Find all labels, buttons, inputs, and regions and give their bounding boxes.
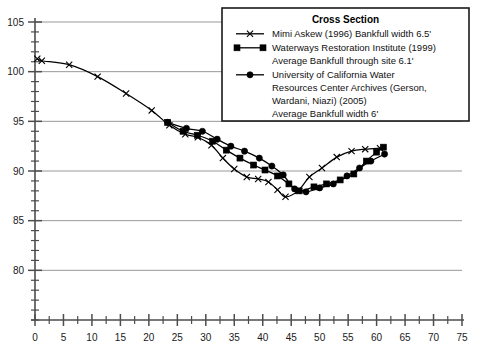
x-tick-label: 0 (32, 332, 38, 343)
series-0-marker-x (149, 107, 155, 113)
x-tick-label: 10 (86, 332, 98, 343)
x-tick-label: 65 (400, 332, 412, 343)
y-tick-label: 105 (7, 17, 24, 28)
x-tick-label: 40 (257, 332, 269, 343)
legend-1-marker-square (260, 45, 266, 51)
x-tick-label: 35 (229, 332, 241, 343)
series-2-marker-circle (344, 173, 350, 179)
series-2-marker-circle (303, 189, 309, 195)
series-0-marker-x (319, 165, 325, 171)
series-1-marker-square (275, 173, 281, 179)
legend-2-marker-circle (247, 72, 253, 78)
x-tick-label: 30 (200, 332, 212, 343)
series-1-marker-square (237, 155, 243, 161)
series-2-marker-circle (214, 136, 220, 142)
series-2-marker-circle (199, 128, 205, 134)
legend-entry-0-line-0: Mimi Askew (1996) Bankfull width 6.5' (272, 28, 431, 39)
series-0-marker-x (220, 155, 226, 161)
x-tick-label: 5 (61, 332, 67, 343)
series-2-marker-circle (183, 125, 189, 131)
y-tick-label: 100 (7, 66, 24, 77)
x-tick-label: 50 (314, 332, 326, 343)
series-2-marker-circle (165, 119, 171, 125)
x-tick-label: 55 (343, 332, 355, 343)
series-1-marker-square (194, 132, 200, 138)
x-tick-label: 60 (371, 332, 383, 343)
series-1-marker-square (380, 144, 386, 150)
legend-entry-1-line-0: Waterways Restoration Institute (1999) (272, 42, 436, 53)
series-0-marker-x (306, 174, 312, 180)
legend-entry-2-line-2: Wardani, Niazi) (2005) (272, 95, 367, 106)
y-tick-label: 80 (13, 265, 25, 276)
series-2-marker-circle (330, 181, 336, 187)
series-0-marker-x (95, 74, 101, 80)
series-0-marker-x (265, 179, 271, 185)
series-0-marker-x (244, 174, 250, 180)
y-tick-label: 95 (13, 116, 25, 127)
series-2-marker-circle (228, 143, 234, 149)
series-2-marker-circle (381, 151, 387, 157)
series-0-marker-x (334, 154, 340, 160)
y-tick-label: 90 (13, 166, 25, 177)
series-1-marker-square (251, 162, 257, 168)
cross-section-chart: 8085909510010505101520253035404550556065… (0, 0, 487, 353)
legend-entry-2-line-1: Resources Center Archives (Gerson, (272, 82, 427, 93)
series-0-marker-x (123, 90, 129, 96)
series-1-marker-square (374, 149, 380, 155)
series-2-marker-circle (317, 185, 323, 191)
x-tick-label: 25 (172, 332, 184, 343)
legend-entry-2-line-0: University of California Water (272, 69, 395, 80)
x-tick-label: 15 (115, 332, 127, 343)
legend-entry-2-line-3: Average Bankfull width 6' (272, 108, 378, 119)
series-1-marker-square (262, 167, 268, 173)
series-2-marker-circle (269, 163, 275, 169)
y-tick-label: 85 (13, 215, 25, 226)
series-2-marker-circle (241, 148, 247, 154)
series-0-marker-x (274, 187, 280, 193)
x-tick-label: 75 (456, 332, 468, 343)
series-2-marker-circle (280, 172, 286, 178)
chart-canvas: 8085909510010505101520253035404550556065… (0, 0, 487, 353)
series-2-marker-circle (256, 155, 262, 161)
x-tick-label: 45 (286, 332, 298, 343)
legend-title: Cross Section (312, 14, 379, 25)
x-tick-label: 70 (428, 332, 440, 343)
legend-entry-1-line-1: Average Bankfull through site 6.1' (272, 55, 414, 66)
series-2-marker-circle (292, 186, 298, 192)
series-2-marker-circle (356, 165, 362, 171)
series-2-marker-circle (368, 158, 374, 164)
legend-1-marker-square (234, 45, 240, 51)
x-tick-label: 20 (143, 332, 155, 343)
